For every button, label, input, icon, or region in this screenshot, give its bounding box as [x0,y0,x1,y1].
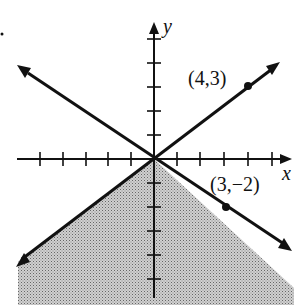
coordinate-graph [0,0,302,305]
point-label-3-neg2: (3,−2) [210,174,260,194]
y-axis-arrow-icon [149,22,159,34]
arrow-upper-left-icon [17,65,31,78]
stray-dot [1,33,4,36]
point-3-neg2 [222,203,230,211]
y-axis-label: y [163,16,172,36]
point-label-4-3: (4,3) [188,68,226,88]
x-axis-label: x [282,163,291,183]
point-4-3 [244,82,252,90]
